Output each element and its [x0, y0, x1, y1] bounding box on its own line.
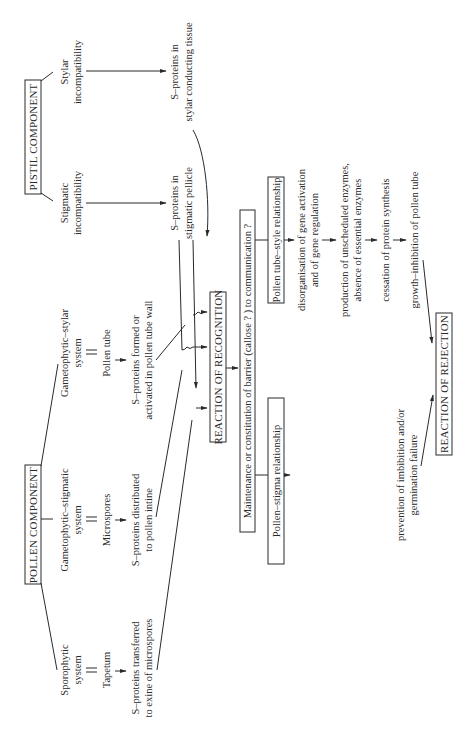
svg-text:stylar conducting tissue: stylar conducting tissue: [183, 22, 194, 121]
pollen-branch-sporophytic: [41, 583, 57, 670]
line-tapetum-to-center: [157, 420, 192, 670]
svg-text:to exine of microspores: to exine of microspores: [143, 619, 154, 718]
svg-text:activated in pollen tube wall: activated in pollen tube wall: [143, 300, 154, 419]
svg-text:S–proteins transferred: S–proteins transferred: [130, 621, 141, 715]
pollen-tube-label: Pollen tube: [101, 329, 112, 377]
svg-text:germination failure: germination failure: [408, 434, 419, 515]
curve-stylar-to-center: [193, 130, 208, 236]
step-production: production of unscheduled enzymes, absen…: [339, 163, 363, 317]
svg-text:system: system: [72, 655, 83, 684]
svg-text:S–proteins in: S–proteins in: [169, 174, 180, 230]
svg-text:prevention of imbibition and/o: prevention of imbibition and/or: [395, 408, 406, 541]
arrow-to-rejection-1: [423, 260, 432, 343]
diagram-svg: PISTIL COMPONENT Stylar incompatibility …: [0, 0, 461, 751]
svg-text:and of gene regulation: and of gene regulation: [309, 192, 320, 287]
svg-text:disorganisation of gene activa: disorganisation of gene activation: [296, 168, 307, 311]
pistil-component-box: PISTIL COMPONENT: [25, 80, 41, 194]
line-pollen-tube-to-center: [156, 325, 185, 360]
svg-text:Pollen tube–style relationship: Pollen tube–style relationship: [271, 178, 282, 303]
svg-text:Gametophytic–stigmatic: Gametophytic–stigmatic: [59, 468, 70, 572]
tapetum-label: Tapetum: [101, 652, 112, 689]
arrow-into-recognition-1: [182, 347, 207, 350]
stylar-incompatibility: Stylar incompatibility: [59, 39, 83, 104]
svg-text:incompatibility: incompatibility: [72, 170, 83, 235]
svg-text:REACTION OF REJECTION: REACTION OF REJECTION: [438, 315, 450, 453]
pistil-branch-stigmatic: [41, 193, 53, 201]
gametophytic-stigmatic-system: Gametophytic–stigmatic system: [59, 468, 83, 572]
pollen-tube-s-proteins: S–proteins formed or activated in pollen…: [130, 300, 154, 419]
svg-text:Stigmatic: Stigmatic: [59, 183, 70, 224]
pollen-tube-style-box: Pollen tube–style relationship: [268, 177, 284, 303]
svg-text:Stylar: Stylar: [59, 59, 70, 85]
svg-text:Sporophytic: Sporophytic: [59, 644, 70, 696]
tapetum-s-proteins: S–proteins transferred to exine of micro…: [130, 619, 154, 718]
self-incompatibility-diagram: PISTIL COMPONENT Stylar incompatibility …: [0, 0, 461, 751]
pollen-component-label: POLLEN COMPONENT: [27, 467, 39, 584]
svg-text:REACTION OF RECOGNITION: REACTION OF RECOGNITION: [212, 290, 224, 445]
barrier-box: Maintenance or constitution of barrier (…: [240, 210, 255, 532]
sporophytic-system: Sporophytic system: [59, 644, 83, 696]
svg-text:Gametophytic–stylar: Gametophytic–stylar: [59, 308, 70, 397]
microspores-label: Microspores: [101, 494, 112, 547]
reaction-of-recognition-box: REACTION OF RECOGNITION: [210, 290, 226, 445]
svg-text:Maintenance or constitution of: Maintenance or constitution of barrier (…: [242, 223, 254, 518]
svg-text:to pollen intine: to pollen intine: [143, 488, 154, 552]
pollen-stigma-effect: prevention of imbibition and/or germinat…: [395, 408, 419, 541]
pistil-branch-stylar: [41, 72, 53, 81]
stigmatic-incompatibility: Stigmatic incompatibility: [59, 170, 83, 235]
svg-text:cessation of protein synthesis: cessation of protein synthesis: [380, 178, 391, 301]
arrow-to-rejection-2: [421, 395, 433, 466]
stylar-s-proteins: S–proteins in stylar conducting tissue: [169, 22, 194, 121]
pistil-component-label: PISTIL COMPONENT: [27, 83, 39, 190]
svg-text:system: system: [72, 505, 83, 534]
line-microspores-to-center: [156, 370, 182, 517]
step-cessation: cessation of protein synthesis: [380, 178, 391, 301]
pollen-component-box: POLLEN COMPONENT: [25, 465, 41, 584]
arrow-into-recognition-2: [193, 312, 207, 315]
microspores-s-proteins: S–proteins distributed to pollen intine: [130, 473, 154, 566]
svg-text:S–proteins distributed: S–proteins distributed: [130, 473, 141, 566]
pollen-stigma-box: Pollen–stigma relationship: [268, 398, 284, 564]
svg-text:system: system: [72, 338, 83, 367]
svg-text:production of unscheduled enzy: production of unscheduled enzymes,: [339, 163, 350, 317]
reaction-of-rejection-box: REACTION OF REJECTION: [436, 313, 452, 455]
svg-text:growth–inhibition of pollen tu: growth–inhibition of pollen tube: [409, 171, 420, 308]
svg-text:S–proteins in: S–proteins in: [169, 43, 180, 99]
svg-text:Pollen–stigma relationship: Pollen–stigma relationship: [271, 425, 282, 537]
svg-text:stigmatic pellicle: stigmatic pellicle: [183, 167, 194, 239]
step-disorganisation: disorganisation of gene activation and o…: [296, 168, 320, 311]
svg-text:S–proteins formed or: S–proteins formed or: [130, 315, 141, 405]
stigmatic-s-proteins: S–proteins in stigmatic pellicle: [169, 167, 194, 239]
line-stigmatic-a: [179, 240, 182, 350]
svg-text:absence of essential enzymes: absence of essential enzymes: [352, 179, 363, 302]
step-growth-inhibition: growth–inhibition of pollen tube: [409, 171, 420, 308]
svg-text:incompatibility: incompatibility: [72, 39, 83, 104]
gametophytic-stylar-system: Gametophytic–stylar system: [59, 308, 83, 397]
pollen-branch-stylar: [41, 364, 58, 466]
